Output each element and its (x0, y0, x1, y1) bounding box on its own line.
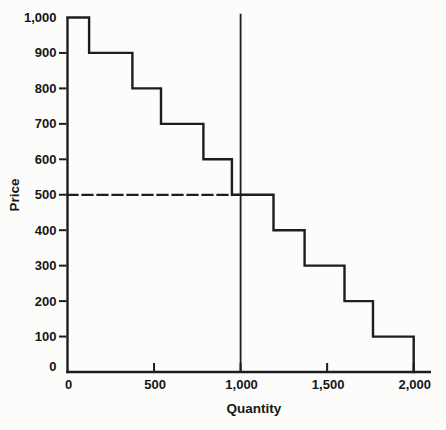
y-tick-label-300: 300 (35, 258, 57, 273)
step-demand-chart-figure: 01002003004005006007008009001,00005001,0… (0, 0, 446, 430)
y-tick-label-0: 0 (49, 359, 56, 374)
y-tick-label-200: 200 (35, 294, 57, 309)
x-tick-label-1000: 1,000 (225, 377, 258, 392)
y-tick-label-800: 800 (35, 81, 57, 96)
y-tick-label-600: 600 (35, 152, 57, 167)
y-tick-label-1000: 1,000 (24, 10, 57, 25)
y-tick-label-700: 700 (35, 116, 57, 131)
y-tick-label-100: 100 (35, 329, 57, 344)
y-tick-label-400: 400 (35, 223, 57, 238)
y-axis-title: Price (7, 178, 22, 211)
y-tick-label-900: 900 (35, 45, 57, 60)
x-tick-label-0: 0 (65, 377, 72, 392)
x-tick-label-500: 500 (144, 377, 166, 392)
y-tick-label-500: 500 (35, 187, 57, 202)
chart-canvas: 01002003004005006007008009001,00005001,0… (0, 0, 446, 430)
x-tick-label-2000: 2,000 (398, 377, 431, 392)
x-tick-label-1500: 1,500 (312, 377, 345, 392)
x-axis-title: Quantity (227, 401, 282, 416)
